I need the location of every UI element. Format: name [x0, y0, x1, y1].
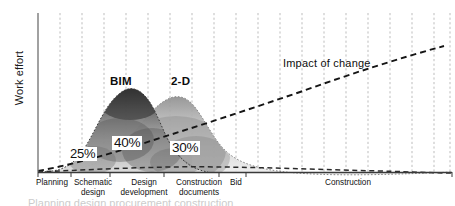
series-label-impact-of-change: Impact of change [283, 57, 371, 69]
annotation-40-percent: 40% [112, 136, 142, 150]
annotation-30-percent-text: 30% [172, 140, 198, 155]
annotation-25-percent-text: 25% [70, 146, 95, 161]
x-tick-construction-documents: Construction documents [168, 178, 230, 198]
series-label-bim: BIM [110, 75, 132, 87]
x-tick-construction: Construction [248, 178, 448, 188]
caption-partial: Planning design procurement construction [28, 197, 328, 206]
y-axis-label: Work effort [13, 32, 25, 124]
chart-canvas [0, 0, 455, 206]
series-label-2d: 2-D [171, 75, 190, 87]
annotation-40-percent-text: 40% [114, 135, 140, 150]
x-tick-schematic-design: Schematic design [67, 178, 119, 198]
work-effort-chart: Work effort BIM 2-D Impact of change 25%… [0, 0, 455, 206]
annotation-30-percent: 30% [170, 141, 200, 155]
x-tick-design-development: Design development [113, 178, 175, 198]
x-tick-bid: Bid [224, 178, 248, 188]
annotation-25-percent: 25% [68, 147, 97, 161]
